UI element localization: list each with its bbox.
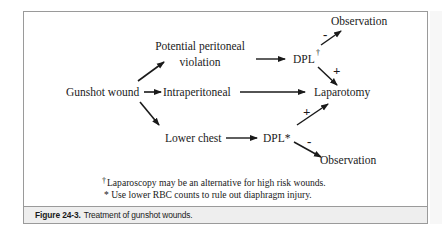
sign-negative-bottom: - (307, 134, 311, 149)
node-laparotomy: Laparotomy (314, 86, 370, 99)
node-dpl-bottom: DPL* (263, 132, 291, 144)
sign-positive-bottom: + (303, 104, 310, 119)
caption-label: Figure 24-3. (35, 210, 81, 220)
node-potential-line1: Potential peritoneal (155, 40, 245, 53)
arrow-to-lower-chest (140, 102, 159, 125)
node-gunshot-wound: Gunshot wound (66, 86, 139, 98)
footnote-dagger: Laparoscopy may be an alternative for hi… (107, 177, 326, 188)
node-dpl-top: DPL (293, 53, 315, 65)
figure-box: Gunshot wound Potential peritoneal viola… (23, 11, 428, 224)
footnote-asterisk: * Use lower RBC counts to rule out diaph… (104, 189, 312, 200)
node-lower-chest: Lower chest (165, 132, 222, 144)
page-edge (430, 11, 442, 224)
sign-positive-top: + (333, 63, 340, 78)
arrow-dpl-bottom-to-laparotomy (297, 104, 328, 125)
node-observation-top: Observation (331, 15, 387, 27)
dagger-mark: † (316, 48, 320, 57)
footnote-dagger-mark: † (102, 176, 106, 185)
node-intraperitoneal: Intraperitoneal (163, 86, 231, 99)
figure-caption: Figure 24-3.Treatment of gunshot wounds. (24, 206, 427, 223)
flowchart: Gunshot wound Potential peritoneal viola… (24, 12, 429, 208)
arrow-to-potential (138, 62, 164, 81)
caption-text: Treatment of gunshot wounds. (84, 210, 193, 220)
node-potential-line2: violation (180, 56, 221, 68)
node-observation-bottom: Observation (320, 154, 376, 166)
sign-negative-top: - (323, 27, 327, 42)
